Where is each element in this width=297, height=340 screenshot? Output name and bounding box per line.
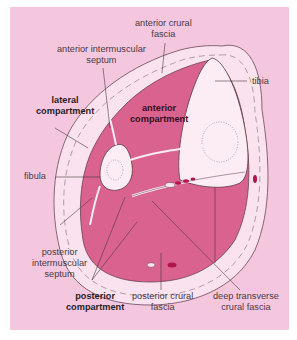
label-line: lateral xyxy=(36,95,94,106)
label-anterior-compartment: anterior compartment xyxy=(130,103,188,125)
label-line: crural fascia xyxy=(213,302,279,313)
label-deep-transverse-crural-fascia: deep transverse crural fascia xyxy=(213,291,279,313)
label-line: compartment xyxy=(66,302,124,313)
label-posterior-intermuscular-septum: posterior intermuscular septum xyxy=(32,247,87,280)
label-posterior-compartment: posterior compartment xyxy=(66,291,124,313)
label-line: fascia xyxy=(132,302,193,313)
label-line: septum xyxy=(32,269,87,280)
label-line: posterior xyxy=(32,247,87,258)
leg-cross-section xyxy=(0,0,297,340)
vein-posterior-2 xyxy=(168,263,177,268)
vein-posterior-1 xyxy=(147,263,155,268)
label-line: septum xyxy=(57,55,146,66)
label-line: deep transverse xyxy=(213,291,279,302)
label-line: posterior xyxy=(66,291,124,302)
label-posterior-crural-fascia: posterior crural fascia xyxy=(132,291,193,313)
label-line: fascia xyxy=(135,29,192,40)
label-tibia: tibia xyxy=(252,76,269,87)
label-line: posterior crural xyxy=(132,291,193,302)
label-line: anterior xyxy=(130,103,188,114)
label-anterior-intermuscular-septum: anterior intermuscular septum xyxy=(57,44,146,66)
label-line: compartment xyxy=(130,114,188,125)
label-line: anterior intermuscular xyxy=(57,44,146,55)
label-lateral-compartment: lateral compartment xyxy=(36,95,94,117)
label-line: compartment xyxy=(36,106,94,117)
label-anterior-crural-fascia: anterior crural fascia xyxy=(135,18,192,40)
label-fibula: fibula xyxy=(24,171,46,182)
label-line: intermuscular xyxy=(32,258,87,269)
label-line: anterior crural xyxy=(135,18,192,29)
vein-right xyxy=(253,175,257,183)
